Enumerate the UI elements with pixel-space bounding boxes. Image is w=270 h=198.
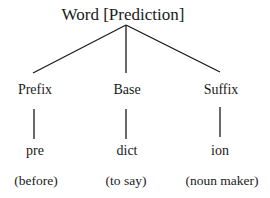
morpheme-dict: dict <box>117 144 138 158</box>
node-base: Base <box>113 83 140 97</box>
meaning-to-say: (to say) <box>106 174 147 188</box>
root-node-word: Word [Prediction] <box>62 6 185 23</box>
connector-root-prefix <box>33 25 126 73</box>
node-prefix: Prefix <box>18 83 52 97</box>
morpheme-pre: pre <box>26 144 44 158</box>
morpheme-ion: ion <box>211 144 229 158</box>
meaning-before: (before) <box>14 174 57 188</box>
tree-connectors <box>0 0 270 198</box>
meaning-noun-maker: (noun maker) <box>185 174 258 188</box>
node-suffix: Suffix <box>204 83 239 97</box>
connector-root-suffix <box>126 25 220 72</box>
